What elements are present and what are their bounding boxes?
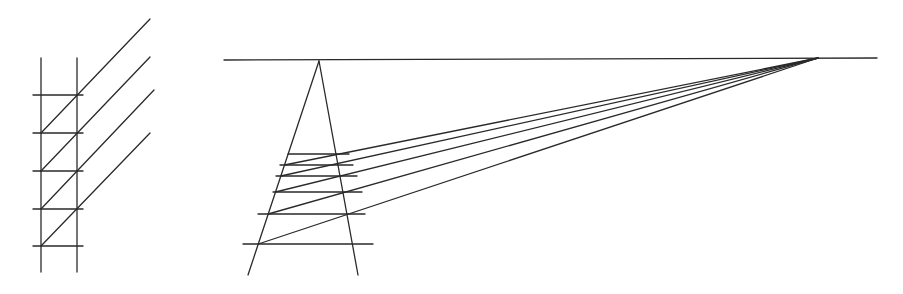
- converging-line: [268, 58, 818, 214]
- diagram-canvas: [0, 0, 903, 294]
- converging-line: [276, 58, 819, 192]
- diagonal-line: [41, 133, 150, 246]
- perspective-ladder-diagram: [224, 58, 877, 275]
- horizon-line: [224, 58, 877, 60]
- parallel-ladder-diagram: [33, 19, 154, 272]
- horizon-line: [224, 58, 877, 60]
- converging-line: [285, 58, 819, 165]
- converging-line: [258, 58, 818, 244]
- diagonal-line: [41, 19, 150, 133]
- diagonal-line: [41, 57, 150, 171]
- perspective-legs: [248, 61, 358, 275]
- converging-lines: [258, 58, 818, 244]
- perspective-leg: [248, 61, 319, 275]
- perspective-leg: [319, 61, 358, 275]
- diagonal-line: [41, 90, 154, 209]
- converging-line: [281, 58, 818, 176]
